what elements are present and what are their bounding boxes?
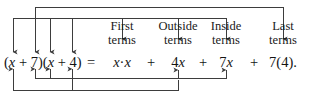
foil-connector-lines [0, 0, 315, 101]
equation-term-inside-text: 7x [219, 54, 233, 70]
equation-equals-sign: = [87, 54, 95, 70]
equation-plus-3: + [250, 54, 258, 70]
equation-left-side: (x + 7)(x + 4) [4, 54, 82, 70]
label-outside: Outside terms [150, 20, 206, 47]
equation-term-first: x·x [113, 54, 131, 70]
equation-term-outside: 4x [171, 54, 185, 70]
equation-plus-2-text: + [199, 54, 207, 70]
equation-plus-3-text: + [250, 54, 258, 70]
label-outside-line2: terms [150, 34, 206, 48]
equation-term-first-text: x·x [113, 54, 131, 70]
equation-term-outside-text: 4x [171, 54, 185, 70]
label-first: First terms [98, 20, 146, 47]
equation-term-last-text: 7(4). [269, 54, 297, 70]
label-last: Last terms [259, 20, 307, 47]
connector-outside-bottom [50, 70, 178, 78]
label-inside: Inside terms [200, 20, 252, 47]
label-inside-line1: Inside [200, 20, 252, 34]
connector-outer-bottom-a [13, 72, 178, 90]
equation-left-side-text: (x + 7)(x + 4) [4, 54, 82, 70]
label-outside-line1: Outside [150, 20, 206, 34]
equation-plus-2: + [199, 54, 207, 70]
label-first-line1: First [98, 20, 146, 34]
label-first-line2: terms [98, 34, 146, 48]
connector-inside-bottom [35, 70, 226, 78]
label-inside-line2: terms [200, 34, 252, 48]
label-last-line2: terms [259, 34, 307, 48]
equation-plus-1: + [147, 54, 155, 70]
equation-term-inside: 7x [219, 54, 233, 70]
equation-equals-text: = [87, 54, 95, 70]
foil-diagram: First terms Outside terms Inside terms L… [0, 0, 315, 101]
label-last-line1: Last [259, 20, 307, 34]
equation-plus-1-text: + [147, 54, 155, 70]
equation-term-last: 7(4). [269, 54, 297, 70]
